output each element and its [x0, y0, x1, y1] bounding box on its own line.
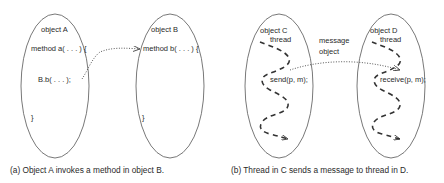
invocation-arrow	[82, 48, 140, 79]
object-b-ellipse	[136, 14, 204, 158]
object-c-thread-label: thread	[270, 35, 291, 44]
message-label-line1: message	[319, 36, 349, 45]
object-a-close-brace: }	[31, 113, 34, 122]
thread-d-path	[372, 42, 400, 139]
object-a-title: object A	[41, 25, 68, 34]
object-c-title: object C	[260, 26, 288, 35]
object-d-thread-label: thread	[380, 35, 401, 44]
object-a-call: B.b( . . . );	[38, 75, 71, 84]
message-label-line2: object	[319, 47, 339, 56]
object-a-method-decl: method a( . . . ) {	[31, 44, 86, 53]
caption-b: (b) Thread in C sends a message to threa…	[231, 165, 408, 175]
caption-a: (a) Object A invokes a method in object …	[10, 165, 164, 175]
object-b-method-decl: method b( . . . ) {	[143, 44, 198, 53]
message-arrow	[290, 62, 400, 70]
object-d-receive-call: receive(p, m);	[380, 75, 426, 84]
thread-c-path	[260, 42, 289, 139]
object-d-title: object D	[370, 26, 398, 35]
object-a-ellipse	[21, 14, 89, 158]
object-c-send-call: send(p, m);	[270, 75, 308, 84]
object-b-close-brace: }	[142, 113, 145, 122]
object-b-title: object B	[151, 25, 178, 34]
